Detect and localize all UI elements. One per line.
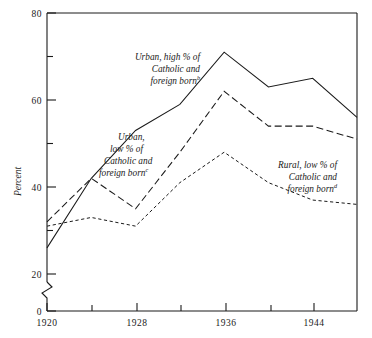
series-line-urban-low: [47, 91, 357, 222]
y-minor-ticks: [47, 57, 53, 231]
x-ticks: [47, 303, 314, 311]
x-tick-label-1936: 1936: [216, 318, 237, 328]
annotation-urban-high-line-2: Catholic and: [152, 64, 201, 74]
annotation-urban-low-line-1: Urban,: [118, 132, 145, 142]
annotation-rural-low-line-3: foreign bornd: [288, 182, 338, 194]
annotation-urban-low-line-3: Catholic and: [104, 156, 153, 166]
annotation-urban-high-line-1: Urban, high % of: [135, 52, 201, 62]
annotation-urban-low-line-4: foreign bornc: [99, 166, 148, 178]
x-tick-label-1928: 1928: [127, 318, 148, 328]
chart-figure: Percent 80 60 40: [0, 0, 372, 338]
y-tick-label-0: 0: [37, 307, 42, 317]
annotation-urban-high-line-3: foreign bornb: [151, 74, 201, 86]
annotation-rural-low: Rural, low % of Catholic and foreign bor…: [277, 160, 338, 194]
x-tick-label-1920: 1920: [37, 318, 58, 328]
data-series-group: [47, 52, 357, 248]
annotation-rural-low-line-2: Catholic and: [289, 172, 338, 182]
series-line-urban-high: [47, 52, 357, 248]
y-tick-label-60: 60: [32, 96, 43, 106]
annotation-urban-low-line-2: low % of: [110, 144, 144, 154]
annotation-urban-low: Urban, low % of Catholic and foreign bor…: [99, 132, 153, 178]
y-axis-title: Percent: [13, 166, 23, 197]
annotation-rural-low-line-1: Rural, low % of: [277, 160, 338, 170]
y-tick-label-40: 40: [32, 183, 43, 193]
annotation-urban-high: Urban, high % of Catholic and foreign bo…: [135, 52, 201, 86]
line-chart-svg: Percent 80 60 40: [0, 0, 372, 338]
y-major-ticks: [47, 13, 56, 311]
x-tick-label-1944: 1944: [304, 318, 325, 328]
y-tick-label-80: 80: [32, 9, 43, 19]
y-tick-label-20: 20: [32, 270, 43, 280]
